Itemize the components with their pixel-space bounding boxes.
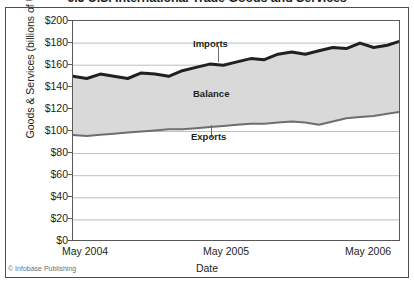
imports-annotation: Imports xyxy=(193,38,228,49)
publisher-credit: © Infobase Publishing xyxy=(8,265,76,272)
y-tick-label: $60 xyxy=(4,169,68,179)
y-tick-label: $160 xyxy=(4,59,68,69)
balance-annotation: Balance xyxy=(193,88,229,99)
y-axis-label: Goods & Services (billions of U.S. dolla… xyxy=(24,0,36,156)
exports-annotation: Exports xyxy=(191,131,226,142)
plot-area xyxy=(72,20,400,241)
y-tick-label: $40 xyxy=(4,191,68,201)
x-tick-label: May 2005 xyxy=(203,245,249,257)
y-tick-label: $200 xyxy=(4,15,68,25)
y-tick-label: $80 xyxy=(4,147,68,157)
y-tick-label: $140 xyxy=(4,81,68,91)
chart-figure: 6.5 U.S. International Trade Goods and S… xyxy=(0,0,414,285)
x-tick-label: May 2006 xyxy=(345,245,391,257)
chart-svg xyxy=(73,21,400,241)
x-tick-label: May 2004 xyxy=(62,245,108,257)
balance-area xyxy=(73,41,400,136)
y-tick-label: $180 xyxy=(4,37,68,47)
y-tick-label: $100 xyxy=(4,125,68,135)
y-tick-label: $20 xyxy=(4,213,68,223)
y-tick-label: $0 xyxy=(4,235,68,245)
y-tick-label: $120 xyxy=(4,103,68,113)
